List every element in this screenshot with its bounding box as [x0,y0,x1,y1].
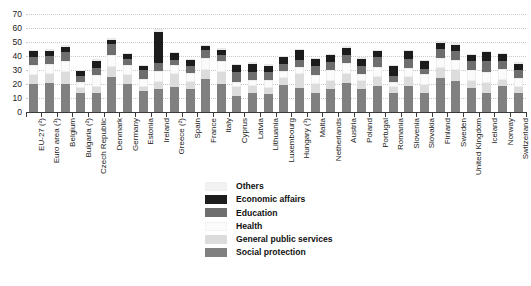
bar-slot [307,14,323,112]
bar-segment-social-protection [61,84,70,112]
legend-swatch-general-public-services [205,235,227,244]
bar-segment-economic-affairs [404,51,413,59]
bar-segment-social-protection [311,93,320,112]
stacked-bar[interactable] [451,43,460,112]
legend-item[interactable]: Education [205,207,333,218]
x-label-slot: EU-27 (²) [26,118,42,178]
bar-segment-health [311,75,320,83]
bar-segment-general-public-services [170,74,179,88]
bar-slot [57,14,73,112]
bar-slot [73,14,89,112]
bar-slot [198,14,214,112]
legend-item[interactable]: Economic affairs [205,194,333,205]
stacked-bar[interactable] [170,52,179,112]
bar-segment-social-protection [389,93,398,112]
stacked-bar[interactable] [232,64,241,112]
bar-slot [495,14,511,112]
bar-segment-general-public-services [295,74,304,87]
legend-label: Economic affairs [236,195,305,204]
stacked-bar[interactable] [420,60,429,112]
bar-segment-health [404,68,413,77]
x-label-slot: Estonia [135,118,151,178]
stacked-bar[interactable] [295,49,304,112]
bar-slot [182,14,198,112]
bar-segment-education [186,66,195,73]
bar-segment-education [451,51,460,61]
stacked-bar[interactable] [201,45,210,112]
stacked-bar[interactable] [264,64,273,112]
legend-swatch-health [205,222,227,231]
bar-segment-social-protection [248,93,257,112]
stacked-bar[interactable] [326,54,335,112]
bar-segment-education [201,50,210,58]
x-tick [182,112,198,117]
stacked-bar[interactable] [217,48,226,112]
bar-segment-health [357,74,366,81]
x-label-slot: Iceland [479,118,495,178]
x-axis-label: Switzerland [522,118,530,159]
stacked-bar[interactable] [342,46,351,112]
bar-segment-general-public-services [482,83,491,93]
stacked-bar[interactable] [29,50,38,112]
bar-segment-social-protection [279,85,288,112]
bar-segment-social-protection [201,79,210,112]
stacked-bar[interactable] [92,59,101,112]
bar-segment-general-public-services [404,77,413,86]
stacked-bar[interactable] [61,45,70,112]
stacked-bar[interactable] [436,41,445,112]
stacked-bar[interactable] [76,70,85,112]
stacked-bar[interactable] [373,50,382,112]
stacked-bar[interactable] [482,51,491,112]
x-label-slot: Lithuania [260,118,276,178]
bar-segment-economic-affairs [436,43,445,50]
bar-slot [26,14,42,112]
bar-segment-education [264,72,273,80]
stacked-bar[interactable] [389,65,398,112]
x-tick [104,112,120,117]
stacked-bar[interactable] [357,57,366,112]
bar-segment-health [61,61,70,72]
stacked-bar[interactable] [311,58,320,112]
bar-segment-social-protection [420,93,429,112]
y-tick-label-10: 10 [13,94,22,103]
bar-segment-social-protection [295,88,304,112]
legend-label: Health [236,222,262,231]
bar-segment-general-public-services [357,81,366,89]
legend-item[interactable]: Others [205,181,333,192]
legend-swatch-education [205,208,227,217]
x-label-slot: Austria [339,118,355,178]
bar-slot [370,14,386,112]
bar-segment-economic-affairs [498,54,507,61]
x-tick [385,112,401,117]
stacked-bar[interactable] [154,29,163,112]
chart-legend: OthersEconomic affairsEducationHealthGen… [205,181,333,258]
legend-item[interactable]: Health [205,221,333,232]
stacked-bar[interactable] [279,56,288,112]
x-tick [260,112,276,117]
stacked-bar[interactable] [248,62,257,112]
stacked-bar[interactable] [514,62,523,112]
bar-segment-education [357,66,366,74]
bar-segment-education [139,70,148,79]
x-label-slot: Norway [495,118,511,178]
legend-item[interactable]: Social protection [205,247,333,258]
stacked-bar[interactable] [107,38,116,112]
bar-segment-education [61,52,70,61]
stacked-bar[interactable] [123,53,132,112]
bar-segment-economic-affairs [311,59,320,66]
x-tick [214,112,230,117]
bar-segment-education [29,57,38,65]
legend-item[interactable]: General public services [205,234,333,245]
stacked-bar[interactable] [467,54,476,112]
x-label-slot: Italy [214,118,230,178]
stacked-bar[interactable] [498,53,507,112]
stacked-bar[interactable] [139,65,148,112]
bar-segment-general-public-services [45,74,54,83]
x-label-slot: Latvia [245,118,261,178]
bar-segment-education [482,61,491,72]
stacked-bar[interactable] [404,50,413,112]
bar-segment-general-public-services [186,82,195,89]
x-label-slot: Cyprus [229,118,245,178]
stacked-bar[interactable] [186,59,195,112]
stacked-bar[interactable] [45,49,54,112]
